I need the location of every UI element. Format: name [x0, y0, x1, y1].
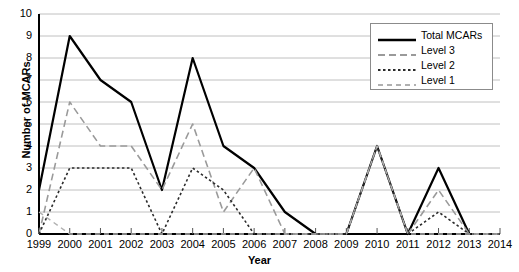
legend-label: Level 3: [421, 45, 455, 56]
legend-swatch-icon: [377, 76, 417, 86]
legend-item[interactable]: Level 3: [377, 43, 492, 58]
legend-label: Total MCARs: [421, 30, 482, 41]
legend-swatch-icon: [377, 61, 417, 71]
legend-swatch-icon: [377, 46, 417, 56]
mcar-line-chart: Number of MCARs Year 012345678910 199920…: [0, 0, 519, 272]
legend-item[interactable]: Total MCARs: [377, 28, 492, 43]
legend-item[interactable]: Level 1: [377, 73, 492, 88]
legend-label: Level 1: [421, 75, 455, 86]
legend-swatch-icon: [377, 31, 417, 41]
chart-legend: Total MCARsLevel 3Level 2Level 1: [370, 23, 493, 90]
legend-item[interactable]: Level 2: [377, 58, 492, 73]
legend-label: Level 2: [421, 60, 455, 71]
